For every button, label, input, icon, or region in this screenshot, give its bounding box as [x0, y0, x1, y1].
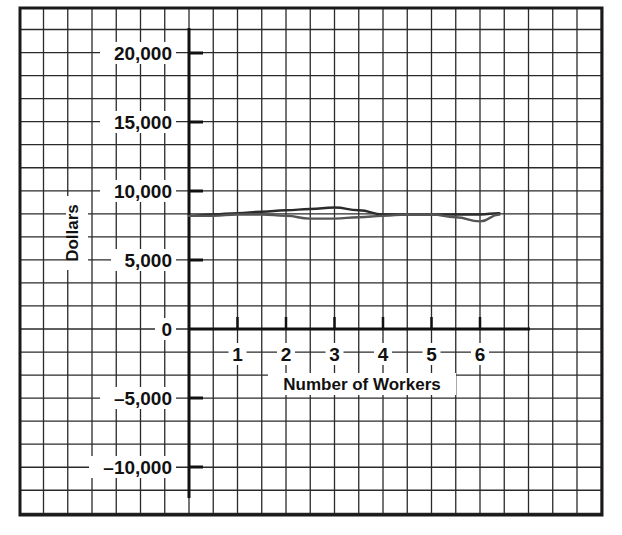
y-tick-label: 10,000 — [114, 181, 172, 202]
chart-canvas: 20,00015,00010,0005,0000–5,000–10,000123… — [0, 0, 622, 535]
x-tick-label: 2 — [281, 344, 292, 365]
y-tick-label: 20,000 — [114, 43, 172, 64]
x-axis-title: Number of Workers — [283, 375, 440, 394]
x-tick-label: 1 — [232, 344, 243, 365]
graph-paper-grid — [20, 8, 602, 515]
y-tick-label: 15,000 — [114, 112, 172, 133]
x-tick-label: 6 — [475, 344, 486, 365]
chart-frame — [20, 8, 602, 515]
y-tick-label: 0 — [161, 319, 172, 340]
x-tick-label: 4 — [378, 344, 389, 365]
y-tick-label: 5,000 — [124, 250, 172, 271]
x-tick-label: 5 — [426, 344, 437, 365]
y-axis-title: Dollars — [63, 204, 82, 262]
x-tick-label: 3 — [329, 344, 340, 365]
y-tick-label: –5,000 — [114, 388, 172, 409]
y-tick-label: –10,000 — [103, 457, 172, 478]
